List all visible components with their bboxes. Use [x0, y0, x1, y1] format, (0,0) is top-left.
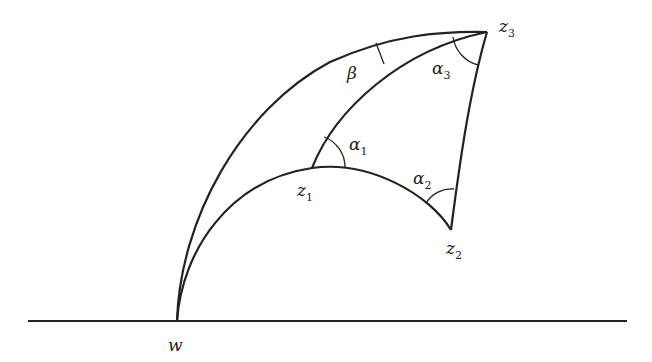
label-alpha1: α1: [349, 134, 367, 158]
label-alpha3: α3: [432, 58, 450, 82]
angle-arc-alpha1: [324, 137, 345, 168]
angle-mark-beta: [376, 43, 384, 64]
label-z2: z2: [445, 238, 462, 262]
label-z3: z3: [498, 16, 515, 40]
geodesic-w-z1-z2: [177, 167, 451, 321]
label-w: w: [168, 335, 183, 355]
label-alpha2: α2: [413, 168, 431, 192]
label-beta: β: [346, 63, 357, 83]
hyperbolic-triangle-diagram: w z1 z2 z3 α1 α2 α3 β: [0, 0, 652, 362]
label-z1: z1: [296, 180, 313, 204]
